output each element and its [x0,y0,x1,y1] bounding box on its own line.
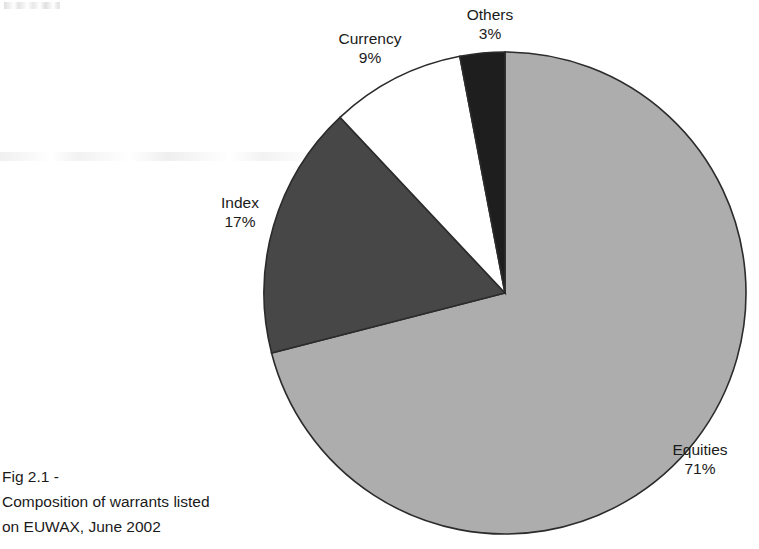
pie-label-index-value: 17% [186,212,294,231]
pie-label-equities-value: 71% [648,459,752,478]
figure-caption-line-3: on EUWAX, June 2002 [2,514,264,539]
pie-label-others-value: 3% [430,24,550,43]
pie-label-others-name: Others [430,5,550,24]
pie-label-currency-name: Currency [308,29,432,48]
figure-page: Equities 71% Index 17% Currency 9% Other… [0,0,759,549]
figure-caption: Fig 2.1 - Composition of warrants listed… [2,464,264,539]
pie-label-currency: Currency 9% [308,29,432,67]
figure-caption-line-2: Composition of warrants listed [2,489,264,514]
pie-label-index-name: Index [186,193,294,212]
pie-label-equities-name: Equities [648,440,752,459]
pie-label-others: Others 3% [430,5,550,43]
figure-caption-line-1: Fig 2.1 - [2,464,264,489]
pie-label-currency-value: 9% [308,48,432,67]
pie-label-equities: Equities 71% [648,440,752,478]
pie-label-index: Index 17% [186,193,294,231]
